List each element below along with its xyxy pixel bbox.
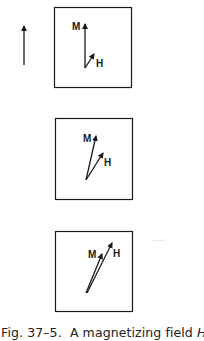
h-label: H	[113, 248, 120, 259]
panel-3: M H	[56, 232, 133, 312]
h-label: H	[96, 58, 103, 69]
caption-symbol: H	[197, 325, 204, 340]
scan-mark	[152, 240, 166, 241]
h-label: H	[104, 157, 111, 168]
m-label: M	[88, 249, 96, 260]
panel-1: M H	[55, 8, 132, 88]
figure-diagram: M H M H M H	[0, 0, 204, 320]
m-label: M	[72, 21, 80, 32]
h-vector-icon	[85, 54, 94, 68]
caption-prefix: Fig. 37–5.	[1, 325, 62, 340]
figure-caption: Fig. 37–5. A magnetizing field H at	[1, 325, 204, 340]
caption-text-before: A magnetizing field	[70, 325, 197, 340]
panel-2: M H	[56, 119, 133, 200]
m-label: M	[83, 133, 91, 144]
